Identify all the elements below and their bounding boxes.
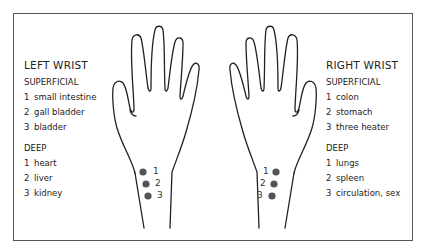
- left-pulse-dot-2: [142, 180, 149, 187]
- right-pulse-dot-2: [270, 180, 277, 187]
- right-pulse-dot-3: [268, 192, 275, 199]
- right-pulse-label-1: 1: [263, 166, 269, 176]
- right-pulse-label-3: 3: [257, 190, 263, 200]
- hands-illustration: [0, 0, 429, 252]
- left-pulse-label-1: 1: [153, 166, 159, 176]
- left-hand-outline: [113, 26, 199, 228]
- left-pulse-label-2: 2: [155, 178, 161, 188]
- right-pulse-label-2: 2: [260, 178, 266, 188]
- right-pulse-points: [268, 168, 279, 199]
- left-pulse-dot-1: [139, 168, 146, 175]
- left-pulse-label-3: 3: [157, 190, 163, 200]
- left-pulse-points: [139, 168, 151, 199]
- right-pulse-dot-1: [272, 168, 279, 175]
- left-pulse-dot-3: [144, 192, 151, 199]
